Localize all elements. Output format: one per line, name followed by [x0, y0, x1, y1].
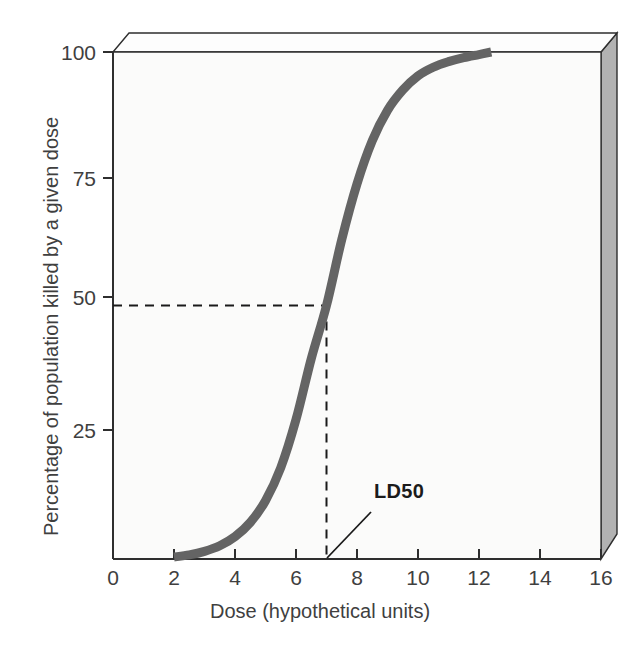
x-tick-label-16: 16 [581, 566, 621, 590]
x-tick-label-0: 0 [93, 566, 133, 590]
y-tick-label-100: 100 [28, 41, 96, 65]
x-tick-label-4: 4 [215, 566, 255, 590]
ld50-annotation-label: LD50 [374, 480, 424, 503]
plot-area-background [113, 52, 601, 559]
x-tick-label-10: 10 [398, 566, 438, 590]
box-right-panel [601, 33, 617, 559]
y-axis-title: Percentage of population killed by a giv… [40, 117, 63, 536]
x-tick-label-8: 8 [337, 566, 377, 590]
dose-response-figure: 100 75 50 25 0 2 4 6 8 10 12 14 16 Perce… [0, 0, 640, 652]
x-axis-title: Dose (hypothetical units) [0, 600, 640, 623]
box-top-panel [113, 33, 617, 52]
x-tick-label-6: 6 [276, 566, 316, 590]
chart-canvas [0, 0, 640, 652]
x-tick-label-12: 12 [459, 566, 499, 590]
x-tick-label-2: 2 [154, 566, 194, 590]
y-axis-ticks [103, 52, 113, 430]
x-tick-label-14: 14 [520, 566, 560, 590]
